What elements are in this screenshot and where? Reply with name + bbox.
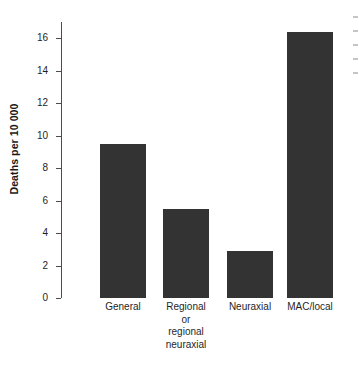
x-axis-category-label: General xyxy=(88,301,158,314)
y-axis-tick-label: 4 xyxy=(42,227,48,238)
bar-series xyxy=(61,18,342,298)
y-axis-title: Deaths per 10 000 xyxy=(0,0,26,298)
y-axis-tick-label: 16 xyxy=(37,32,48,43)
x-axis-category-label: Regionalorregionalneuraxial xyxy=(151,301,221,351)
plot-area: 0246810121416 xyxy=(61,18,342,298)
bar xyxy=(287,32,333,298)
x-axis-label-line: neuraxial xyxy=(151,339,221,352)
x-axis-label-line: regional xyxy=(151,326,221,339)
scan-fleck xyxy=(353,72,358,74)
y-axis-title-text: Deaths per 10 000 xyxy=(7,103,19,194)
x-axis-label-line: General xyxy=(88,301,158,314)
scan-fleck xyxy=(353,16,358,18)
y-axis-tick-label: 2 xyxy=(42,260,48,271)
y-axis-tick-label: 6 xyxy=(42,195,48,206)
bar xyxy=(163,209,209,298)
y-axis-tick-label: 8 xyxy=(42,162,48,173)
bar xyxy=(100,144,146,298)
scan-fleck xyxy=(353,58,358,60)
y-axis-tick-label: 10 xyxy=(37,130,48,141)
y-axis-tick-label: 12 xyxy=(37,97,48,108)
x-axis-category-label: MAC/local xyxy=(275,301,345,314)
y-axis-tick-label: 14 xyxy=(37,65,48,76)
scan-fleck xyxy=(353,30,358,32)
y-axis-tick-label: 0 xyxy=(42,292,48,303)
x-axis-label-line: MAC/local xyxy=(275,301,345,314)
scan-fleck xyxy=(353,44,358,46)
y-axis-tick-mark xyxy=(56,298,61,299)
bar xyxy=(227,251,273,298)
scan-edge-artifact xyxy=(345,14,359,84)
x-axis-category-labels: GeneralRegionalorregionalneuraxialNeurax… xyxy=(61,301,342,371)
x-axis-label-line: or xyxy=(151,314,221,327)
x-axis-label-line: Regional xyxy=(151,301,221,314)
bar-chart-figure: Deaths per 10 000 0246810121416 GeneralR… xyxy=(0,0,359,371)
